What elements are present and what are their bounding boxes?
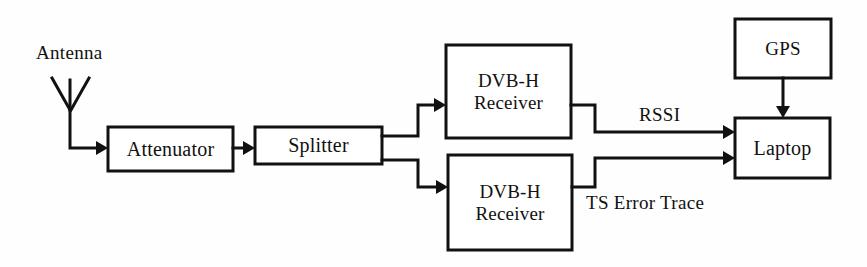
receiver-bottom-box[interactable] [448,155,572,250]
rssi-edge-label: RSSI [639,104,680,126]
splitter-to-receiver-bottom-line [382,160,437,187]
splitter-to-receiver-bottom-connector [382,160,448,194]
attenuator-to-splitter-connector [233,141,255,155]
gps-box[interactable] [735,19,831,78]
splitter-to-receiver-top-connector [382,98,446,136]
splitter-box[interactable] [255,127,382,164]
block-diagram-canvas: Antenna Attenuator Splitter DVB-H Receiv… [0,0,867,267]
receiver-top-to-laptop-arrowhead [723,125,735,139]
antenna-prong-right [71,78,89,110]
antenna-to-attenuator-arrowhead [96,141,108,155]
splitter-to-receiver-bottom-arrowhead [436,180,448,194]
antenna-prong-left [52,78,70,110]
attenuator-to-splitter-arrowhead [243,141,255,155]
receiver-bottom-to-laptop-arrowhead [723,151,735,165]
receiver-bottom-to-laptop-connector [572,151,735,187]
splitter-to-receiver-top-line [382,105,435,136]
receiver-top-box[interactable] [446,45,571,138]
antenna-feed-line [70,108,97,148]
gps-to-laptop-arrowhead [776,106,790,118]
ts-error-trace-edge-label: TS Error Trace [586,192,704,214]
antenna-label: Antenna [36,42,102,64]
diagram-vector-layer [0,0,867,267]
receiver-bottom-to-laptop-line [572,158,724,187]
laptop-box[interactable] [735,118,830,178]
antenna-symbol [52,78,108,155]
attenuator-box[interactable] [108,127,233,171]
splitter-to-receiver-top-arrowhead [434,98,446,112]
gps-to-laptop-connector [776,78,790,118]
